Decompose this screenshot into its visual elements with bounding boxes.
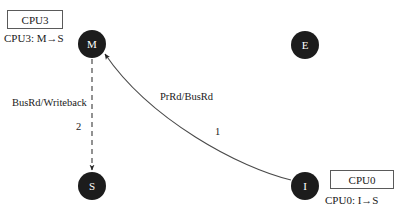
state-node-e-label: E bbox=[302, 40, 309, 51]
edge-i-to-m bbox=[105, 54, 291, 180]
mesi-protocol-diagram: M E S I CPU3 CPU0 CPU3: M→S CPU0: I→S Bu… bbox=[0, 0, 402, 216]
cpu0-box-label: CPU0 bbox=[349, 174, 376, 186]
state-node-s[interactable]: S bbox=[78, 172, 106, 200]
edge-step-1: 1 bbox=[215, 126, 220, 137]
state-node-i[interactable]: I bbox=[291, 172, 319, 200]
edge-label-busrd-writeback: BusRd/Writeback bbox=[12, 97, 87, 108]
cpu3-box: CPU3 bbox=[7, 10, 63, 29]
edge-label-prrd-busrd: PrRd/BusRd bbox=[160, 91, 213, 102]
cpu3-box-label: CPU3 bbox=[22, 14, 49, 26]
state-node-e[interactable]: E bbox=[291, 31, 319, 59]
state-node-m-label: M bbox=[87, 39, 97, 50]
cpu0-box: CPU0 bbox=[330, 170, 394, 189]
state-node-s-label: S bbox=[89, 181, 95, 192]
state-node-m[interactable]: M bbox=[78, 30, 106, 58]
cpu3-transition-note: CPU3: M→S bbox=[4, 32, 64, 44]
cpu0-transition-note: CPU0: I→S bbox=[325, 194, 379, 206]
edge-step-2: 2 bbox=[76, 121, 81, 132]
state-node-i-label: I bbox=[303, 181, 307, 192]
